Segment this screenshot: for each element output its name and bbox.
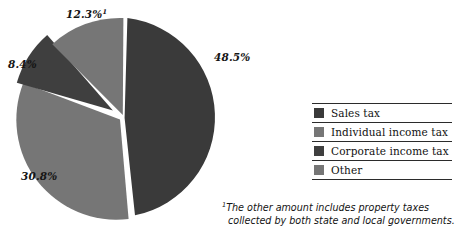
legend-swatch-sales-tax (314, 108, 324, 118)
legend-item-individual-income-tax[interactable]: Individual income tax (312, 123, 452, 141)
legend-label-sales-tax: Sales tax (331, 107, 380, 119)
legend-item-corporate-income-tax[interactable]: Corporate income tax (312, 142, 452, 160)
legend: Sales tax Individual income tax Corporat… (312, 103, 452, 180)
legend-divider (312, 179, 452, 180)
legend-label-other: Other (331, 164, 362, 176)
legend-swatch-individual-income-tax (314, 127, 324, 137)
pie-label-other: 12.3%1 (66, 8, 107, 20)
pie-label-individual-income-tax: 30.8% (21, 170, 58, 182)
legend-label-corporate-income-tax: Corporate income tax (331, 145, 449, 157)
legend-swatch-corporate-income-tax (314, 146, 324, 156)
pie-slice-sales-tax[interactable] (125, 18, 215, 215)
pie-chart-graphic: 12.3%1 8.4% 30.8% 48.5% (0, 0, 250, 235)
pie-label-corporate-income-tax: 8.4% (8, 58, 37, 70)
chart-footnote: 1The other amount includes property taxe… (222, 201, 458, 227)
pie-svg (0, 0, 250, 235)
legend-label-individual-income-tax: Individual income tax (331, 126, 448, 138)
legend-item-sales-tax[interactable]: Sales tax (312, 104, 452, 122)
pie-chart-figure: 12.3%1 8.4% 30.8% 48.5% Sales tax Indivi… (0, 0, 458, 235)
legend-item-other[interactable]: Other (312, 161, 452, 179)
legend-swatch-other (314, 165, 324, 175)
footnote-line-1: The other amount includes property taxes (226, 202, 429, 213)
footnote-line-2: collected by both state and local govern… (222, 214, 458, 227)
pie-label-other-footnote-marker: 1 (103, 8, 108, 16)
pie-label-sales-tax: 48.5% (214, 51, 251, 63)
